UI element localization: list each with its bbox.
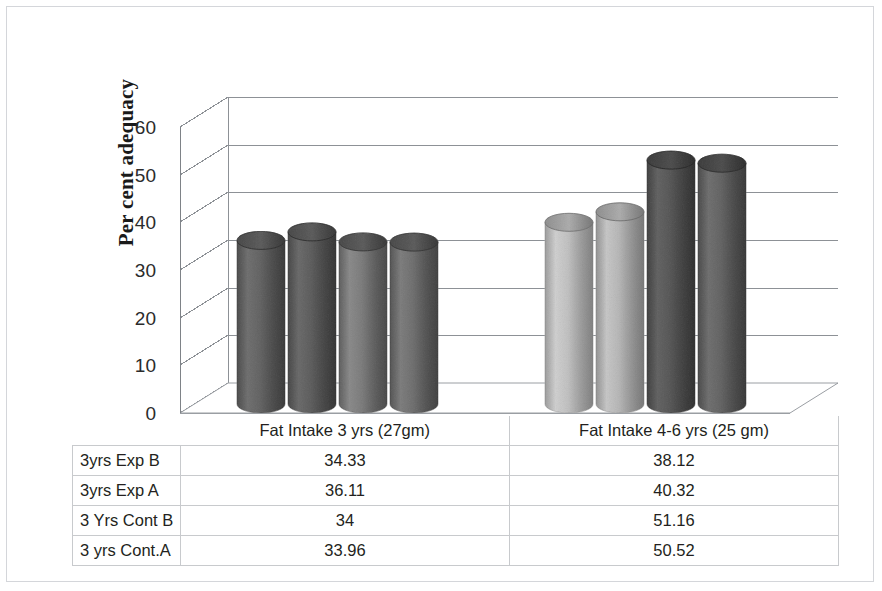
y-tick-10: 10	[112, 355, 156, 377]
y-tick-40: 40	[112, 212, 156, 234]
cylinder-g2-s1	[545, 213, 593, 413]
value-1-0: 36.11	[181, 476, 510, 506]
cylinder-g1-s3	[339, 233, 387, 413]
value-2-0: 34	[181, 506, 510, 536]
cylinder-g2-s4	[698, 154, 746, 413]
value-0-0: 34.33	[181, 446, 510, 476]
chart-data-table: Fat Intake 3 yrs (27gm) Fat Intake 4-6 y…	[72, 416, 839, 566]
cylinder-g1-s2	[288, 223, 336, 413]
y-tick-60: 60	[112, 117, 156, 139]
table-row: 3yrs Exp B 34.33 38.12	[73, 446, 839, 476]
table-header-corner	[73, 416, 181, 446]
series-label-1: 3yrs Exp A	[73, 476, 181, 506]
table-row: 3 Yrs Cont B 34 51.16	[73, 506, 839, 536]
cylinder-g2-s3	[647, 151, 695, 413]
value-3-1: 50.52	[510, 536, 839, 566]
cylinder-g1-s4	[390, 233, 438, 413]
series-label-0: 3yrs Exp B	[73, 446, 181, 476]
y-axis-title: Per cent adequacy	[114, 33, 139, 293]
table-row: 3 yrs Cont.A 33.96 50.52	[73, 536, 839, 566]
y-tick-30: 30	[112, 260, 156, 282]
cylinder-g1-s1	[237, 231, 285, 413]
value-3-0: 33.96	[181, 536, 510, 566]
table-header-group2: Fat Intake 4-6 yrs (25 gm)	[510, 416, 839, 446]
cylinder-g2-s2	[596, 203, 644, 413]
y-tick-50: 50	[112, 165, 156, 187]
y-tick-20: 20	[112, 308, 156, 330]
value-1-1: 40.32	[510, 476, 839, 506]
table-header-row: Fat Intake 3 yrs (27gm) Fat Intake 4-6 y…	[73, 416, 839, 446]
series-label-2: 3 Yrs Cont B	[73, 506, 181, 536]
series-label-3: 3 yrs Cont.A	[73, 536, 181, 566]
value-0-1: 38.12	[510, 446, 839, 476]
table-row: 3yrs Exp A 36.11 40.32	[73, 476, 839, 506]
value-2-1: 51.16	[510, 506, 839, 536]
table-header-group1: Fat Intake 3 yrs (27gm)	[181, 416, 510, 446]
